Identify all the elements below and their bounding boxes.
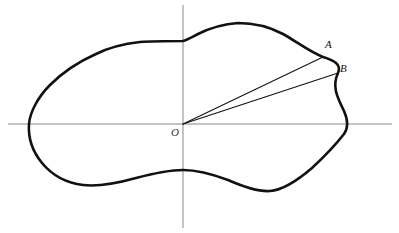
point-b-label: B [340, 63, 347, 74]
figure-drawing [0, 0, 399, 233]
radius-vector-oa [183, 57, 323, 124]
closed-region-boundary-curve [29, 23, 348, 191]
figure-canvas: O A B [0, 0, 399, 233]
origin-label: O [171, 127, 179, 138]
point-a-label: A [325, 39, 332, 50]
radius-vector-ob [183, 73, 338, 124]
